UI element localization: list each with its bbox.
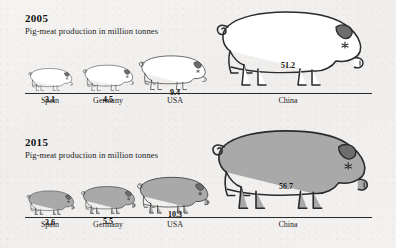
pig-silhouette (78, 181, 137, 217)
value-label-usa: 9.4 (170, 88, 180, 97)
value-label-spain: 3.6 (45, 218, 55, 227)
pig-scale-wrapper (78, 181, 100, 217)
pig-silhouette (135, 49, 209, 93)
pig-silhouette (203, 115, 373, 217)
country-label-usa: USA (167, 96, 183, 105)
value-label-germany: 5.5 (103, 217, 113, 226)
pig-silhouette (24, 186, 76, 217)
value-label-usa: 10.3 (168, 210, 182, 219)
pig-scale-wrapper (80, 60, 99, 93)
pig-figure-china (208, 0, 368, 93)
value-label-spain: 3.1 (45, 95, 55, 104)
pig-figure-spain (26, 64, 74, 93)
pig-scale-wrapper (208, 0, 368, 93)
pig-scale-wrapper (24, 186, 41, 217)
value-label-china: 56.7 (279, 182, 293, 191)
country-label-china: China (278, 96, 297, 105)
pig-scale-wrapper (26, 64, 40, 93)
country-label-row: Spain Germany USA China (0, 220, 396, 234)
pig-figure-germany (78, 181, 137, 217)
country-label-china: China (278, 220, 297, 229)
pig-scale-wrapper (135, 49, 169, 93)
pig-figure-usa (135, 49, 209, 93)
value-label-germany: 4.5 (103, 95, 113, 104)
panel-subtitle: Pig-meat production in million tonnes (25, 150, 158, 160)
panel-year-heading: 2015 (25, 136, 48, 148)
pig-figure-spain (24, 186, 76, 217)
panel-2005: 2005 Pig-meat production in million tonn… (0, 0, 396, 124)
pig-silhouette (80, 60, 135, 93)
pig-scale-wrapper (133, 170, 171, 217)
baseline-rule (25, 217, 372, 218)
country-label-usa: USA (167, 220, 183, 229)
panel-year-heading: 2005 (25, 12, 48, 24)
pig-silhouette (26, 64, 74, 93)
pig-scale-wrapper (203, 115, 383, 217)
baseline-rule (25, 93, 372, 94)
pig-figure-china (203, 115, 373, 217)
panel-subtitle: Pig-meat production in million tonnes (25, 26, 158, 36)
value-label-china: 51.2 (281, 61, 295, 70)
panel-2015: 2015 Pig-meat production in million tonn… (0, 124, 396, 248)
country-label-row: Spain Germany USA China (0, 96, 396, 110)
pig-figure-germany (80, 60, 135, 93)
pig-silhouette (208, 0, 368, 93)
